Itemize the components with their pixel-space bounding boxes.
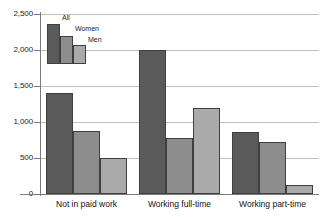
- legend-label-all: All: [62, 14, 70, 21]
- y-axis-tick-label: 1,500: [0, 82, 33, 90]
- bar-all-2: [139, 50, 166, 194]
- legend-label-women: Women: [75, 25, 99, 32]
- bar-men-2: [193, 108, 220, 194]
- bar-women-3: [259, 142, 286, 194]
- y-axis-tick-text: 2,500: [1, 10, 33, 18]
- y-axis-tick-label: 500: [0, 154, 33, 162]
- legend-swatch-women: [60, 36, 73, 64]
- chart-legend: AllWomenMen: [47, 14, 119, 64]
- y-axis-tick-label: 2,500: [0, 10, 33, 18]
- y-axis-tick-text: 1,000: [1, 118, 33, 126]
- y-axis-tick-text: 2,000: [1, 46, 33, 54]
- legend-swatch-men: [73, 45, 86, 64]
- legend-label-men: Men: [88, 36, 102, 43]
- y-axis-tick-text: 1,500: [1, 82, 33, 90]
- bar-men-1: [100, 158, 127, 194]
- bar-women-2: [166, 138, 193, 194]
- bar-men-3: [286, 185, 313, 194]
- bar-women-1: [73, 131, 100, 194]
- x-axis-line: [20, 194, 319, 195]
- x-axis-category-label: Working part-time: [213, 199, 321, 209]
- legend-swatch-all: [47, 24, 60, 64]
- y-axis-tick-label: 2,000: [0, 46, 33, 54]
- bar-all-3: [232, 132, 259, 194]
- bar-all-1: [46, 93, 73, 194]
- bar-chart: 05001,0001,5002,0002,500 Not in paid wor…: [0, 0, 321, 217]
- y-axis-tick-label: 1,000: [0, 118, 33, 126]
- y-axis-tick-text: 500: [1, 154, 33, 162]
